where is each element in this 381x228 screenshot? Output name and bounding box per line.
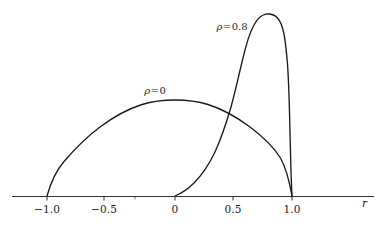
tick-label-0.5: 0.5 [225,203,242,215]
tick-label-1.0: 1.0 [284,203,301,215]
x-axis-ticks [47,197,292,201]
equals-sign: = [150,85,159,96]
tick-label-0: 0 [172,203,179,215]
rho-symbol: ρ [144,85,150,96]
rho-symbol: ρ [216,21,222,32]
x-axis-title: r [362,197,367,209]
tick-label--1.0: −1.0 [34,203,60,215]
equals-sign: = [222,21,231,32]
density-curve-rho-0-8 [175,14,292,196]
plot-canvas [0,0,381,228]
curve-annotation-rho-0: ρ=0 [144,85,166,96]
density-curve-rho-0 [47,100,292,196]
rho-value: 0 [159,85,165,96]
correlation-density-figure: −1.0 −0.5 0 0.5 1.0 r ρ=0 ρ=0.8 [0,0,381,228]
rho-value: 0.8 [232,21,248,32]
tick-label--0.5: −0.5 [91,203,117,215]
curve-annotation-rho-0-8: ρ=0.8 [216,21,247,32]
